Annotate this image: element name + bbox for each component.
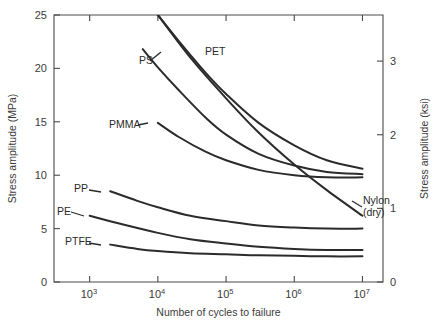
chart-canvas: PETPSPMMANylon(dry)PPPEPTFE 103104105106… [0,0,443,329]
y-tick-label-3: 15 [35,116,47,128]
y2-tick-label-2: 2 [390,129,396,141]
y-axis-title: Stress amplitude (MPa) [6,94,18,204]
series-label-ps: PS [139,54,153,66]
y2-axis-title: Stress amplitude (ksi) [418,98,430,199]
y-tick-label-4: 20 [35,62,47,74]
pp-leader [89,190,101,192]
series-label-pmma: PMMA [109,118,141,130]
x-tick-label-1: 104 [149,287,165,300]
x-tick-label-2: 105 [217,287,233,300]
x-axis-title: Number of cycles to failure [156,306,280,318]
y-tick-label-1: 5 [41,223,47,235]
pe-leader [71,212,84,216]
series-label-pe: PE [57,205,71,217]
series-labels: PETPSPMMANylon(dry)PPPEPTFE [57,45,390,247]
y-tick-label-0: 0 [41,276,47,288]
x-tick-label-4: 107 [353,287,369,300]
nylon-leader [352,201,362,207]
curve-pp [110,191,362,228]
series-label-pet: PET [205,45,226,57]
curve-pet [158,15,363,169]
data-curves [90,15,363,256]
label-leader-lines [71,52,362,245]
y2-tick-label-3: 3 [390,55,396,67]
sn-curve-figure: PETPSPMMANylon(dry)PPPEPTFE 103104105106… [0,0,443,329]
y2-tick-label-1: 1 [390,202,396,214]
x-tick-label-0: 103 [81,287,97,300]
series-label-ptfe: PTFE [65,235,92,247]
y-tick-label-2: 10 [35,169,47,181]
y-tick-label-5: 25 [35,9,47,21]
curve-pmma [158,123,363,178]
series-label-nylon-dry: Nylon(dry) [363,194,390,218]
curve-nylon-dry [158,15,363,216]
y2-tick-label-0: 0 [390,276,396,288]
curve-ps [143,49,363,174]
series-label-pp: PP [74,182,88,194]
x-tick-label-3: 106 [285,287,301,300]
